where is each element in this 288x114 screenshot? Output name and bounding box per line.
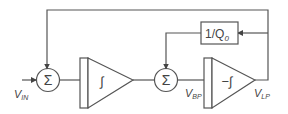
sigma-label-2: Σ bbox=[162, 72, 171, 88]
integral-label-2: −∫ bbox=[221, 74, 234, 89]
gain-block: 1/Q0 bbox=[201, 22, 238, 44]
gain-label: 1/Q bbox=[205, 27, 224, 41]
lowpass-signal-label: VLP bbox=[254, 87, 270, 100]
block-diagram: Σ ∫ Σ −∫ 1/Q0 VIN VBP VLP bbox=[0, 0, 288, 114]
sigma-label-1: Σ bbox=[44, 72, 53, 88]
bandpass-signal-label: VBP bbox=[185, 87, 202, 100]
summing-junction-1: Σ bbox=[37, 69, 60, 92]
gain-subscript: 0 bbox=[224, 34, 229, 43]
input-signal-label: VIN bbox=[14, 88, 29, 101]
integrator-1: ∫ bbox=[80, 58, 133, 108]
integrator-2: −∫ bbox=[204, 58, 255, 108]
summing-junction-2: Σ bbox=[155, 69, 178, 92]
gain-to-sum2 bbox=[166, 33, 201, 69]
